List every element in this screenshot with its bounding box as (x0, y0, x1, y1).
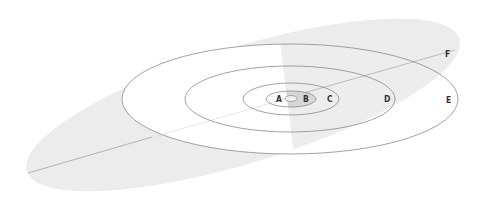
orbit-diagram: A B C D E F (0, 0, 481, 203)
orbit-a (285, 96, 297, 102)
label-d: D (384, 94, 390, 104)
label-b: B (303, 94, 309, 104)
label-a: A (276, 94, 282, 104)
label-c: C (327, 94, 333, 104)
label-e: E (446, 95, 451, 105)
label-f: F (445, 49, 450, 59)
